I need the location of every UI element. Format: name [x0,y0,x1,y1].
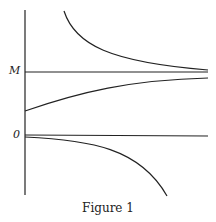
figure-caption: Figure 1 [0,201,216,215]
equilibrium-zero-line [25,135,208,136]
curve-above-m [64,11,208,70]
label-m: M [9,64,20,77]
label-zero: 0 [13,128,20,141]
curve-between [25,78,208,111]
curve-below-zero [25,137,167,196]
diagram [0,0,216,222]
